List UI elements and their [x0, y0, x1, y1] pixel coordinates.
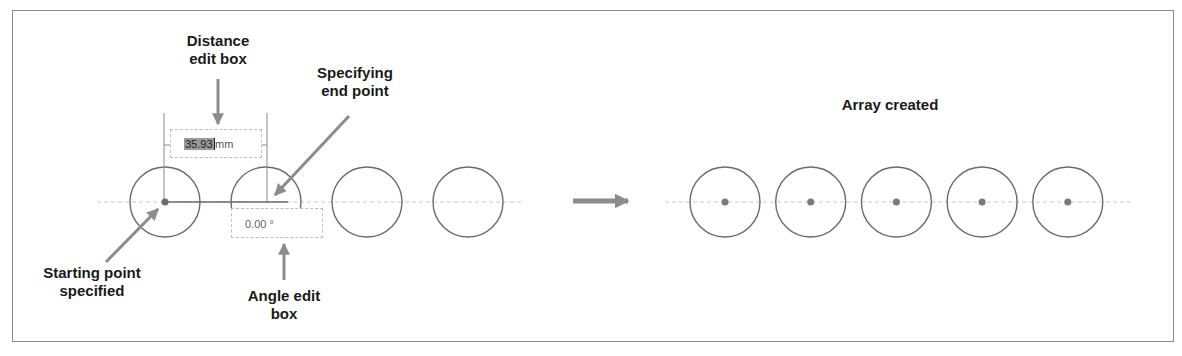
- starting-point-label: Starting point specified: [22, 264, 162, 300]
- start-point-marker: [162, 199, 169, 206]
- arrayed-center-point-3: [893, 199, 900, 206]
- distance-unit: mm: [215, 138, 233, 150]
- arrayed-center-point-1: [722, 199, 729, 206]
- arrayed-center-point-5: [1064, 199, 1071, 206]
- arrayed-center-point-4: [979, 199, 986, 206]
- angle-value[interactable]: 0.00 °: [245, 218, 274, 230]
- arrayed-center-point-2: [807, 199, 814, 206]
- array-created-label: Array created: [800, 96, 980, 114]
- specifying-end-point-label: Specifying end point: [302, 64, 408, 100]
- distance-edit-box-label: Distance edit box: [165, 32, 271, 68]
- distance-edit-box[interactable]: 35.93mm: [170, 129, 262, 158]
- start-point-callout-arrow: [106, 209, 158, 262]
- angle-edit-box-label: Angle edit box: [231, 287, 337, 323]
- distance-value[interactable]: 35.93: [184, 138, 214, 150]
- angle-edit-box[interactable]: 0.00 °: [231, 208, 323, 238]
